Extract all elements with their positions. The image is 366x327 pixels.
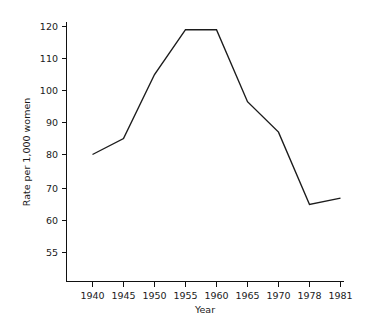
x-axis-tick-labels: 1940 1945 1950 1955 1960 1965 1970 1978 … — [80, 290, 352, 301]
x-tick-label: 1950 — [142, 290, 166, 301]
x-tick-label: 1978 — [297, 290, 321, 301]
line-chart: 120 110 100 90 80 70 60 55 1940 1945 195… — [0, 0, 366, 327]
x-tick-label: 1940 — [80, 290, 104, 301]
x-tick-label: 1981 — [328, 290, 352, 301]
y-tick-label: 60 — [46, 215, 58, 226]
y-tick-label: 110 — [40, 53, 58, 64]
y-tick-label: 90 — [46, 117, 58, 128]
data-series-line — [93, 30, 341, 205]
y-tick-label: 55 — [46, 247, 58, 258]
y-tick-label: 80 — [46, 149, 58, 160]
y-tick-label: 100 — [40, 85, 58, 96]
x-tick-label: 1960 — [204, 290, 228, 301]
x-tick-label: 1965 — [235, 290, 259, 301]
x-tick-label: 1955 — [173, 290, 197, 301]
x-tick-label: 1945 — [111, 290, 135, 301]
y-axis-ticks — [62, 27, 66, 253]
x-axis-title: Year — [194, 304, 215, 315]
y-axis-tick-labels: 120 110 100 90 80 70 60 55 — [40, 21, 58, 258]
y-axis-title: Rate per 1,000 women — [21, 98, 32, 207]
x-axis-ticks — [93, 282, 341, 287]
y-tick-label: 70 — [46, 183, 58, 194]
x-tick-label: 1970 — [266, 290, 290, 301]
chart-canvas: 120 110 100 90 80 70 60 55 1940 1945 195… — [0, 0, 366, 327]
y-tick-label: 120 — [40, 21, 58, 32]
